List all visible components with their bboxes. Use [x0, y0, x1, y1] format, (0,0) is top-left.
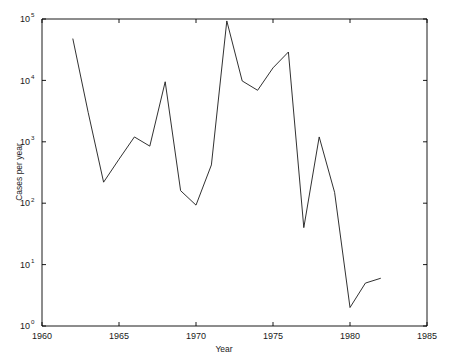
y-tick-label-base: 10	[20, 321, 30, 331]
y-tick-label-exponent: 0	[31, 318, 35, 325]
y-tick-label-base: 10	[20, 76, 30, 86]
x-tick-label: 1960	[32, 331, 52, 341]
x-tick-label: 1970	[186, 331, 206, 341]
y-tick-label-exponent: 4	[31, 73, 35, 80]
chart-figure: 196019651970197519801985 100101102103104…	[0, 0, 449, 364]
x-tick-label: 1965	[109, 331, 129, 341]
y-tick-label-exponent: 1	[31, 257, 35, 264]
x-tick-label: 1985	[417, 331, 437, 341]
y-tick-label-base: 10	[20, 14, 30, 24]
y-axis-title: Cases per year	[14, 143, 24, 201]
figure-background	[0, 0, 449, 364]
line-chart-svg: 196019651970197519801985 100101102103104…	[0, 0, 449, 364]
x-tick-label: 1975	[263, 331, 283, 341]
x-axis-title: Year	[215, 344, 232, 354]
y-tick-label-exponent: 2	[31, 196, 35, 203]
y-tick-label-base: 10	[20, 260, 30, 270]
y-tick-label-exponent: 5	[31, 11, 35, 18]
x-tick-label: 1980	[340, 331, 360, 341]
y-tick-label-exponent: 3	[31, 134, 35, 141]
